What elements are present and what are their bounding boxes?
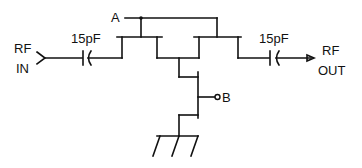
terminal-b-icon (215, 95, 220, 100)
node-a-label: A (111, 11, 120, 24)
rf-in-terminal-icon (37, 52, 45, 64)
rf-switch-schematic: RF IN 15pF A 15pF RF OUT B (0, 0, 362, 168)
fet-q4-icon (179, 115, 198, 136)
rf-in-label-line2: IN (16, 62, 29, 75)
fet-q1-icon (117, 37, 162, 58)
node-b-label: B (222, 91, 231, 104)
rf-out-label-line1: RF (322, 44, 339, 57)
rf-in-label-line1: RF (14, 42, 31, 55)
fet-q3-icon (179, 72, 198, 118)
schematic-drawing (0, 0, 362, 168)
ground-icon (153, 136, 198, 156)
c1-value-label: 15pF (71, 32, 101, 45)
fet-q2-icon (194, 37, 241, 58)
c2-value-label: 15pF (259, 32, 289, 45)
rf-out-label-line2: OUT (318, 64, 345, 77)
